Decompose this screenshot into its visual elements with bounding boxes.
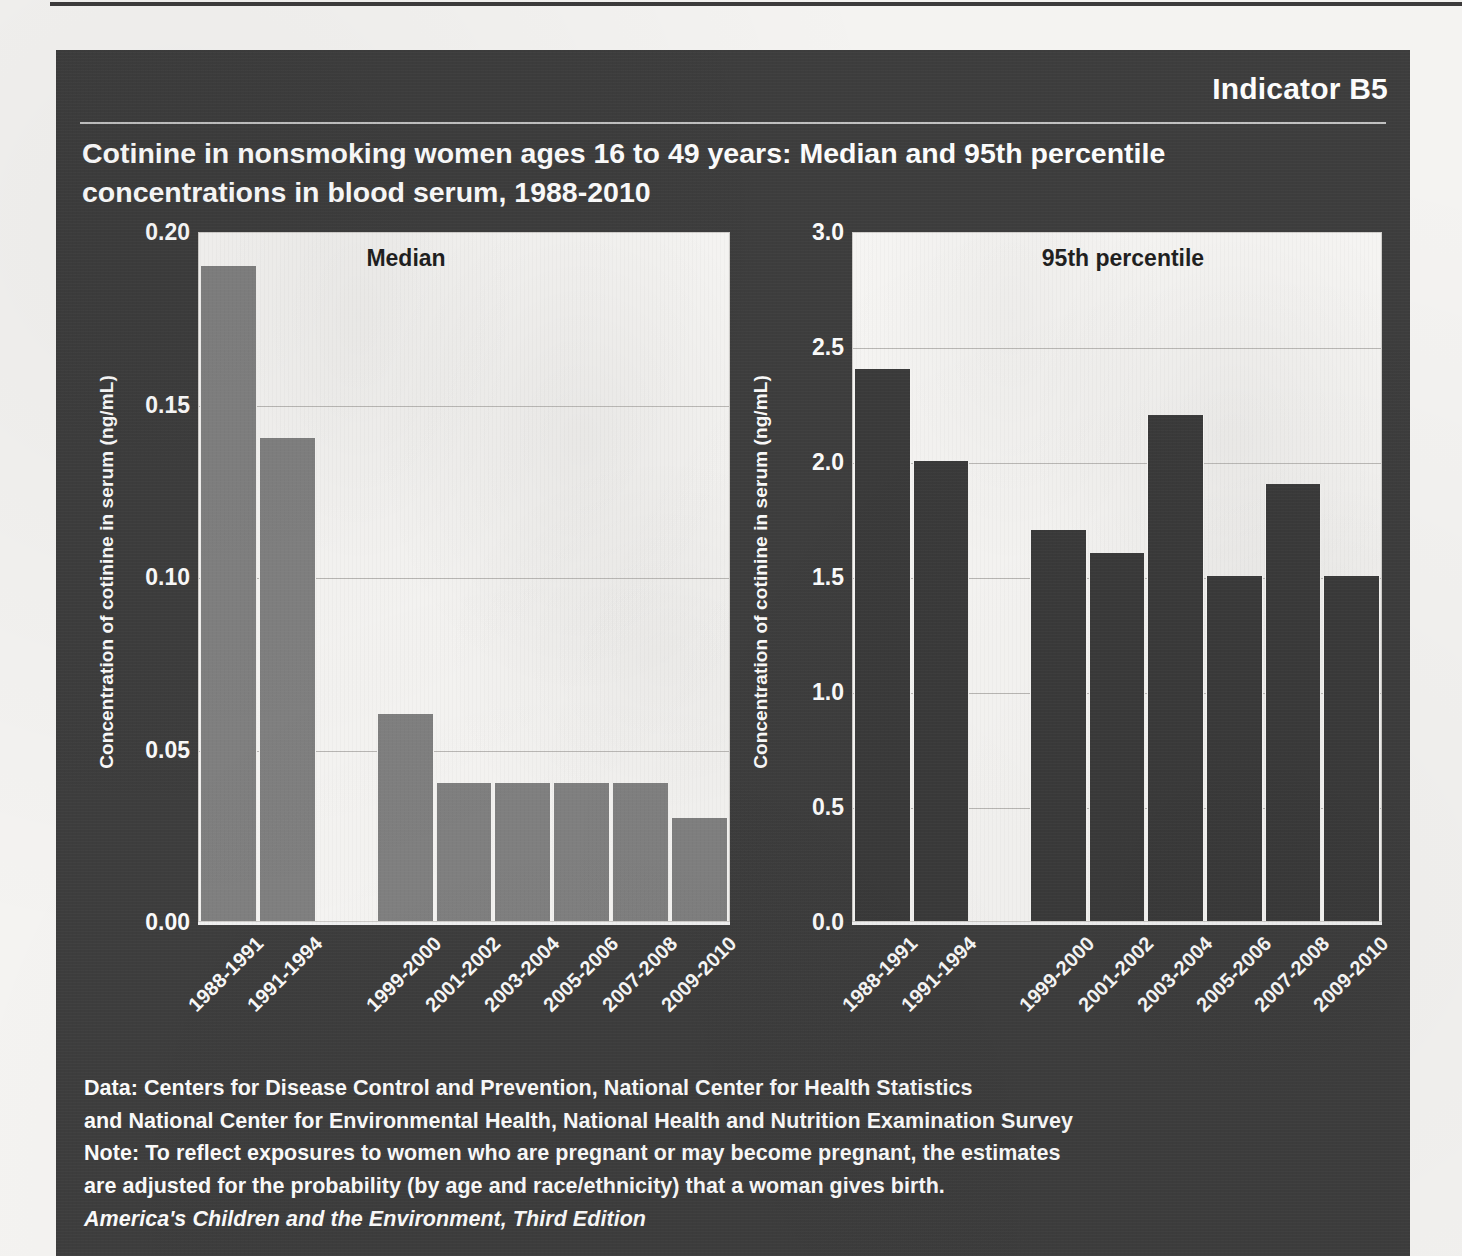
bar xyxy=(1089,553,1146,921)
bar xyxy=(1030,530,1087,921)
bar-slot xyxy=(912,233,971,921)
bar xyxy=(1265,484,1322,921)
bar-series-median xyxy=(199,233,729,921)
y-tick-label: 1.5 xyxy=(812,564,844,591)
bar-slot xyxy=(552,233,611,921)
footer-source: America's Children and the Environment, … xyxy=(84,1203,1384,1236)
plot-area-median: Median xyxy=(198,232,730,922)
bar xyxy=(553,783,610,921)
y-tick-label: 2.0 xyxy=(812,449,844,476)
chart-95th-percentile: Concentration of cotinine in serum (ng/m… xyxy=(732,232,1390,932)
header-divider xyxy=(80,122,1386,124)
y-axis-label-median: Concentration of cotinine in serum (ng/m… xyxy=(92,232,122,912)
footer-line: Data: Centers for Disease Control and Pr… xyxy=(84,1072,1384,1105)
bar xyxy=(259,438,316,921)
bar xyxy=(1147,415,1204,921)
page-title: Cotinine in nonsmoking women ages 16 to … xyxy=(82,134,1282,213)
y-tick-label: 0.20 xyxy=(145,219,190,246)
bar xyxy=(494,783,551,921)
bar xyxy=(612,783,669,921)
bar xyxy=(200,266,257,922)
y-tick-label: 0.15 xyxy=(145,391,190,418)
bar-slot xyxy=(493,233,552,921)
x-axis-line-percentile xyxy=(852,922,1382,925)
bar-slot xyxy=(853,233,912,921)
x-axis-line-median xyxy=(198,922,730,925)
y-tick-label: 0.00 xyxy=(145,909,190,936)
bar-gap xyxy=(317,233,376,921)
y-tick-label: 1.0 xyxy=(812,679,844,706)
bar xyxy=(913,461,970,921)
bar-slot xyxy=(1088,233,1147,921)
bar xyxy=(1323,576,1380,921)
bar-slot xyxy=(258,233,317,921)
footer-line: are adjusted for the probability (by age… xyxy=(84,1170,1384,1203)
bar-slot xyxy=(670,233,729,921)
y-tick-label: 0.10 xyxy=(145,564,190,591)
bar-slot xyxy=(435,233,494,921)
footer-line: and National Center for Environmental He… xyxy=(84,1105,1384,1138)
bar-slot xyxy=(611,233,670,921)
indicator-label: Indicator B5 xyxy=(1212,72,1388,106)
footer-notes: Data: Centers for Disease Control and Pr… xyxy=(84,1072,1384,1235)
bar-slot xyxy=(1205,233,1264,921)
bar-slot xyxy=(1322,233,1381,921)
chart-subtitle-median: Median xyxy=(141,245,671,272)
bar xyxy=(854,369,911,921)
bar-gap xyxy=(970,233,1029,921)
bar-series-percentile xyxy=(853,233,1381,921)
bar-slot xyxy=(376,233,435,921)
page-top-rule xyxy=(50,2,1462,6)
indicator-panel: Indicator B5 Cotinine in nonsmoking wome… xyxy=(56,50,1410,1256)
y-tick-label: 0.05 xyxy=(145,736,190,763)
x-axis-labels-median: 1988-19911991-19941999-20002001-20022003… xyxy=(198,926,730,1066)
bar xyxy=(377,714,434,921)
y-tick-label: 3.0 xyxy=(812,219,844,246)
bar-slot xyxy=(1264,233,1323,921)
plot-area-percentile: 95th percentile xyxy=(852,232,1382,922)
y-axis-label-percentile: Concentration of cotinine in serum (ng/m… xyxy=(746,232,776,912)
bar-slot xyxy=(1029,233,1088,921)
bar-slot xyxy=(199,233,258,921)
bar xyxy=(436,783,493,921)
y-axis-ticks-percentile: 0.00.51.01.52.02.53.0 xyxy=(774,232,850,922)
bar xyxy=(1206,576,1263,921)
scanned-page: Indicator B5 Cotinine in nonsmoking wome… xyxy=(0,0,1462,1256)
x-axis-labels-percentile: 1988-19911991-19941999-20002001-20022003… xyxy=(852,926,1382,1066)
y-tick-label: 2.5 xyxy=(812,334,844,361)
y-tick-label: 0.0 xyxy=(812,909,844,936)
chart-median: Concentration of cotinine in serum (ng/m… xyxy=(78,232,738,932)
y-tick-label: 0.5 xyxy=(812,794,844,821)
y-axis-ticks-median: 0.000.050.100.150.20 xyxy=(120,232,196,922)
footer-line: Note: To reflect exposures to women who … xyxy=(84,1137,1384,1170)
chart-subtitle-percentile: 95th percentile xyxy=(859,245,1387,272)
bar xyxy=(671,818,728,922)
bar-slot xyxy=(1146,233,1205,921)
